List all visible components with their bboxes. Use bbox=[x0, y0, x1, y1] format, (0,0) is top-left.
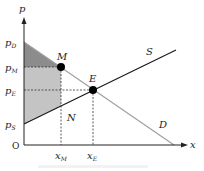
y-axis-arrow-icon bbox=[22, 17, 27, 24]
point-m-label: M bbox=[56, 51, 68, 62]
tick-label-pM: pM bbox=[5, 62, 18, 74]
point-m-marker bbox=[57, 63, 65, 71]
demand-label: D bbox=[158, 119, 167, 130]
x-axis-arrow-icon bbox=[181, 143, 188, 148]
tick-label-xM: xM bbox=[55, 150, 68, 162]
caption-faint bbox=[38, 165, 148, 168]
supply-label: S bbox=[146, 46, 153, 57]
tick-label-pD: pD bbox=[5, 37, 16, 49]
supply-demand-diagram: p x O pD pM pE pS xM xE M E N S D bbox=[0, 0, 204, 171]
origin-label: O bbox=[12, 141, 19, 151]
tick-label-xE: xE bbox=[87, 150, 98, 162]
y-axis-label: p bbox=[19, 3, 26, 14]
x-axis-label: x bbox=[190, 139, 196, 150]
tick-label-pS: pS bbox=[5, 119, 16, 131]
region-n-label: N bbox=[66, 112, 77, 123]
point-e-marker bbox=[89, 86, 97, 94]
point-e-label: E bbox=[88, 73, 97, 84]
tick-label-pE: pE bbox=[5, 85, 16, 97]
